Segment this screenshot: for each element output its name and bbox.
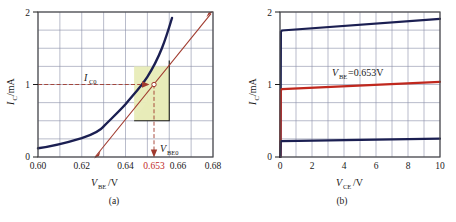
y-tick-label-1: 1 [25,80,30,90]
y-tick-label-0-b: 0 [267,152,272,162]
x-tick-label-0-b: 0 [278,161,283,171]
x-tick-label-3: 0.66 [170,161,187,171]
chart-a-svg: 0 1 2 0.60 0.62 0.64 0.653 0.66 0.68 V B… [0,0,228,222]
x-tick-label-2: 0.64 [117,161,134,171]
x-tick-label-5-b: 10 [435,161,445,171]
panel-a-caption: (a) [0,196,228,206]
vbe0-label-sub: BE0 [167,149,179,156]
y-axis-title-unit-b: /mA [247,77,258,96]
vbe-value-label-sub: BE [339,73,347,80]
y-tick-label-2: 2 [25,8,30,18]
x-tick-label-0: 0.60 [30,161,47,171]
operating-point-marker [152,82,156,86]
x-tick-label-4-b: 8 [406,161,411,171]
x-tick-label-1-b: 2 [310,161,315,171]
x-axis-title-a: V BE /V [91,177,119,190]
y-axis-title-unit: /mA [5,77,16,96]
x-axis-title-sub-b: CE [343,183,351,190]
x-axis-title-b: V CE /V [336,177,364,190]
panel-b-caption: (b) [228,196,456,206]
chart-b-svg: 0 1 2 0 2 4 6 8 10 V CE /V I C /mA [228,0,456,222]
x-axis-title-unit-b: /V [353,177,364,188]
x-tick-label-3-b: 6 [374,161,379,171]
x-tick-label-highlight: 0.653 [143,161,165,171]
ic0-label-sub: C0 [89,78,97,85]
x-tick-label-1: 0.62 [73,161,90,171]
vbe-value-label-tail: =0.653V [348,67,384,78]
x-axis-title-sub: BE [98,183,106,190]
ic0-label-main: I [83,72,88,83]
y-ticks-b [275,12,280,157]
panel-b: 0 1 2 0 2 4 6 8 10 V CE /V I C /mA [228,0,456,222]
y-ticks-a [33,12,38,157]
y-axis-title-main-b: I [247,101,258,106]
y-axis-title-b: I C /mA [247,77,260,106]
y-axis-title-main: I [5,101,16,106]
y-tick-label-2-b: 2 [267,8,272,18]
x-tick-label-4: 0.68 [205,161,222,171]
x-axis-title-unit: /V [108,177,119,188]
y-tick-label-1-b: 1 [267,80,272,90]
slope-shaded-rect [134,66,169,120]
figure-container: 0 1 2 0.60 0.62 0.64 0.653 0.66 0.68 V B… [0,0,456,222]
y-axis-title-a: I C /mA [5,77,18,106]
panel-a: 0 1 2 0.60 0.62 0.64 0.653 0.66 0.68 V B… [0,0,228,222]
x-tick-label-2-b: 4 [342,161,347,171]
